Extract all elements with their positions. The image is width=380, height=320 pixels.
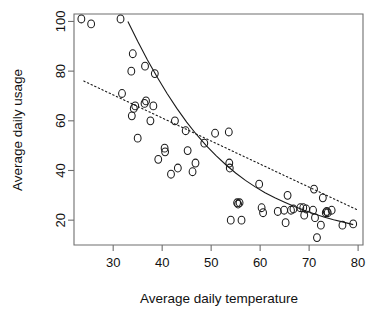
data-point [256, 180, 263, 188]
data-point [317, 221, 324, 229]
data-point [117, 15, 124, 23]
data-point [189, 168, 196, 176]
data-points [78, 15, 357, 241]
fitted-curves [84, 21, 358, 224]
y-tick-label: 20 [53, 213, 68, 227]
data-point [155, 155, 162, 163]
data-point [328, 206, 335, 214]
data-point [227, 216, 234, 224]
data-point [238, 216, 245, 224]
data-point [311, 185, 318, 193]
x-tick-label: 50 [204, 255, 218, 270]
data-point [282, 219, 289, 227]
data-point [132, 102, 139, 110]
data-point [128, 67, 135, 75]
data-point [212, 129, 219, 137]
x-axis-label: Average daily temperature [140, 291, 298, 306]
data-point [319, 194, 326, 202]
data-point [281, 206, 288, 214]
x-tick-label: 60 [253, 255, 267, 270]
y-tick-label: 80 [53, 64, 68, 78]
y-tick-label: 60 [53, 114, 68, 128]
data-point [168, 170, 175, 178]
data-point [260, 209, 267, 217]
exponential-fit [128, 21, 353, 224]
x-tick-label: 30 [106, 255, 120, 270]
data-point [88, 20, 95, 28]
data-point [150, 102, 157, 110]
data-point [119, 90, 126, 98]
plot-border [74, 14, 363, 245]
data-point [314, 234, 321, 242]
data-point [274, 208, 281, 216]
data-point [225, 128, 232, 136]
plot-frame [74, 14, 363, 245]
data-point [174, 164, 181, 172]
data-point [182, 127, 189, 135]
chart-canvas: 304050607080 20406080100 Average daily t… [0, 0, 380, 320]
data-point [142, 62, 149, 70]
x-tick-label: 40 [155, 255, 169, 270]
data-point [134, 134, 141, 142]
y-tick-label: 100 [53, 11, 68, 33]
x-axis-ticks: 304050607080 [106, 245, 365, 270]
data-point [284, 191, 291, 199]
data-point [143, 97, 150, 105]
y-tick-label: 40 [53, 163, 68, 177]
data-point [312, 214, 319, 222]
x-tick-label: 70 [302, 255, 316, 270]
data-point [147, 117, 154, 125]
y-axis-ticks: 20406080100 [53, 11, 74, 228]
y-axis-label: Average daily usage [10, 69, 25, 191]
data-point [128, 112, 135, 120]
data-point [78, 15, 85, 23]
data-point [258, 204, 265, 212]
x-tick-label: 80 [351, 255, 365, 270]
data-point [184, 147, 191, 155]
data-point [129, 50, 136, 58]
scatter-plot-figure: 304050607080 20406080100 Average daily t… [0, 0, 380, 320]
data-point [192, 159, 199, 167]
